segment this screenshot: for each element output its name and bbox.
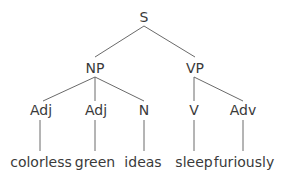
node-adv: Adv — [230, 102, 257, 118]
edge-np-n — [95, 77, 144, 101]
node-adj-1: Adj — [30, 102, 52, 118]
node-vp: VP — [186, 60, 204, 76]
node-v: V — [189, 102, 199, 118]
node-np: NP — [86, 60, 105, 76]
node-n: N — [139, 102, 149, 118]
edge-vp-adv — [194, 77, 243, 101]
edge-s-np — [95, 26, 144, 57]
word-colorless: colorless — [10, 154, 72, 170]
node-s: S — [140, 9, 149, 25]
node-adj-2: Adj — [85, 102, 107, 118]
word-sleep: sleep — [175, 154, 212, 170]
word-green: green — [75, 154, 115, 170]
word-ideas: ideas — [124, 154, 161, 170]
edge-np-adj1 — [43, 77, 95, 101]
word-furiously: furiously — [214, 154, 274, 170]
edge-s-vp — [144, 26, 195, 57]
